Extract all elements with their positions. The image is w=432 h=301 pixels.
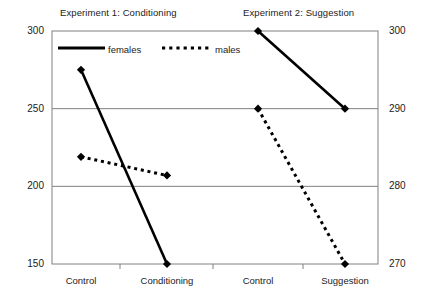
- series-line-females-experiment-1: [81, 70, 167, 264]
- gridlines: [52, 109, 378, 187]
- data-point-males-conditioning: [163, 171, 171, 179]
- data-point-females-control: [77, 66, 85, 74]
- plot-area: [0, 0, 432, 301]
- data-point-males-control: [254, 105, 262, 113]
- plot-frame: [52, 31, 378, 264]
- x-axis-ticks: [120, 264, 303, 269]
- data-point-females-conditioning: [163, 260, 171, 268]
- data-series-layer: [77, 27, 349, 268]
- data-point-males-control: [77, 153, 85, 161]
- line-chart: Experiment 1: Conditioning Experiment 2:…: [0, 0, 432, 301]
- series-line-females-experiment-2: [258, 31, 345, 109]
- data-point-males-suggestion: [341, 260, 349, 268]
